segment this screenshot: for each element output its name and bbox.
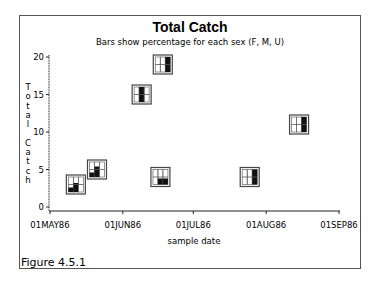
y-tick-label: 15 [33,90,44,100]
chart: Total Catch Bars show percentage for eac… [0,0,380,285]
figure-caption: Figure 4.5.1 [21,256,86,269]
data-marker [66,175,85,194]
chart-subtitle: Bars show percentage for each sex (F, M,… [96,37,284,47]
y-axis-label-letter: l [27,119,29,129]
y-tick-label: 10 [33,127,44,137]
marker-bar-m [158,179,163,185]
y-axis-label: Total Catch [24,82,31,185]
x-tick-label: 01MAY86 [30,220,69,230]
marker-bar-m [94,167,99,178]
x-tick-label: 01AUG86 [246,220,286,230]
y-axis-label-letter: h [25,175,30,185]
chart-title: Total Catch [152,19,227,35]
y-axis: 05101520 [33,52,49,212]
x-tick-label: 01JUL86 [176,220,211,230]
data-marker [240,168,259,187]
y-tick-label: 5 [39,165,44,175]
data-marker [132,85,151,104]
data-marker [87,160,106,179]
y-tick-label: 0 [39,202,44,212]
y-tick-label: 20 [33,52,44,62]
x-tick-label: 01SEP86 [320,220,358,230]
data-marker [153,55,172,74]
data-markers [66,55,308,194]
marker-bar-f [89,173,94,178]
data-marker [151,168,170,187]
x-axis: 01MAY8601JUN8601JUL8601AUG8601SEP86 [30,211,357,230]
data-marker [290,115,309,134]
x-tick-label: 01JUN86 [104,220,141,230]
marker-bar-u [163,179,168,185]
x-axis-label: sample date [168,236,221,246]
marker-bar-f [68,188,73,193]
